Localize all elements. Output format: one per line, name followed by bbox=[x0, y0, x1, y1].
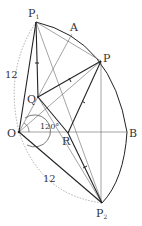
angle-label: 120° bbox=[40, 122, 59, 131]
label-o: O bbox=[7, 127, 16, 140]
point-o bbox=[18, 131, 21, 134]
line-rp bbox=[68, 61, 101, 133]
label-p: P bbox=[103, 52, 111, 65]
geometry-figure: P1 A P Q O R B P2 12 12 120° bbox=[0, 0, 142, 226]
arc-main bbox=[36, 22, 127, 132]
label-q: Q bbox=[27, 93, 36, 106]
label-b: B bbox=[129, 127, 137, 140]
label-p1: P1 bbox=[28, 7, 39, 20]
arc-lower bbox=[102, 132, 127, 203]
length-label-top: 12 bbox=[5, 69, 18, 80]
label-a: A bbox=[69, 21, 79, 34]
point-q bbox=[37, 96, 39, 98]
line-op1 bbox=[19, 22, 36, 132]
line-qp2 bbox=[38, 97, 102, 203]
line-p1p bbox=[36, 22, 101, 61]
label-r: R bbox=[62, 135, 71, 148]
line-p1q bbox=[36, 22, 38, 97]
line-op2 bbox=[19, 132, 102, 203]
label-p2: P2 bbox=[96, 207, 107, 220]
length-label-bottom: 12 bbox=[43, 173, 56, 184]
line-rp2 bbox=[68, 133, 102, 203]
